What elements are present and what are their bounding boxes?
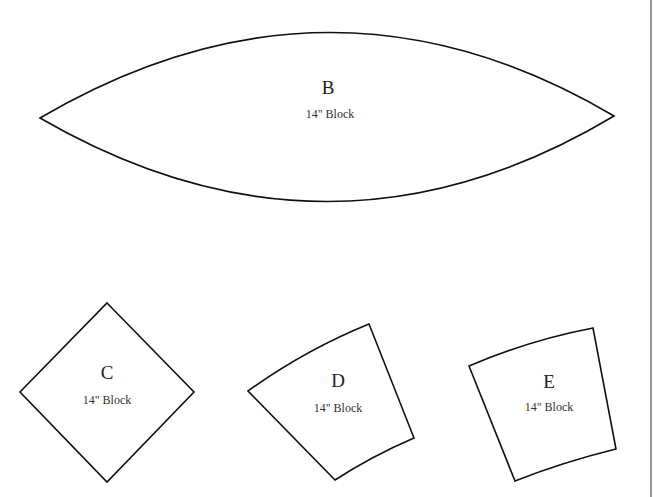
piece-e-letter: E	[543, 371, 555, 392]
piece-e: E 14" Block	[469, 328, 616, 481]
template-sheet: B 14" Block C 14" Block D 14" Block E 14…	[0, 0, 654, 497]
piece-c-letter: C	[101, 362, 114, 383]
template-svg: B 14" Block C 14" Block D 14" Block E 14…	[0, 0, 654, 497]
piece-e-size-label: 14" Block	[525, 400, 574, 414]
piece-b-size-label: 14" Block	[306, 107, 355, 121]
piece-d: D 14" Block	[248, 324, 414, 480]
piece-b-letter: B	[322, 77, 335, 98]
piece-d-letter: D	[331, 370, 345, 391]
piece-d-size-label: 14" Block	[314, 401, 363, 415]
piece-c: C 14" Block	[20, 303, 194, 482]
piece-c-size-label: 14" Block	[83, 393, 132, 407]
piece-b: B 14" Block	[40, 32, 614, 201]
